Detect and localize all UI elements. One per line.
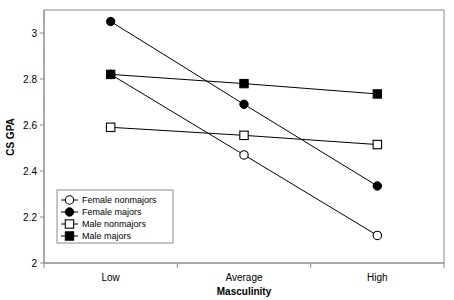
x-axis-title: Masculinity — [217, 286, 272, 297]
x-axis-ticks — [44, 263, 444, 268]
x-axis-tick-labels: LowAverageHigh — [101, 272, 387, 283]
data-point-marker — [373, 231, 381, 239]
data-point-marker — [106, 17, 114, 25]
y-tick-label: 2.4 — [23, 166, 37, 177]
data-point-marker — [65, 232, 73, 240]
data-point-marker — [106, 123, 114, 131]
legend-label: Male majors — [82, 231, 132, 241]
data-point-marker — [65, 220, 73, 228]
legend-label: Male nonmajors — [82, 219, 147, 229]
data-point-marker — [373, 140, 381, 148]
data-point-marker — [240, 151, 248, 159]
data-point-marker — [65, 196, 73, 204]
gpa-masculinity-line-chart: 22.22.42.62.83 LowAverageHigh CS GPA Mas… — [0, 0, 454, 300]
y-tick-label: 2.8 — [23, 74, 37, 85]
y-axis-ticks: 22.22.42.62.83 — [23, 28, 44, 269]
y-tick-label: 3 — [31, 28, 37, 39]
x-tick-label: Low — [101, 272, 120, 283]
data-point-marker — [106, 70, 114, 78]
x-tick-label: Average — [225, 272, 263, 283]
legend-item: Male nonmajors — [61, 219, 147, 229]
data-point-marker — [240, 100, 248, 108]
legend-label: Female majors — [82, 207, 142, 217]
legend-item: Male majors — [61, 231, 132, 241]
data-point-marker — [240, 131, 248, 139]
y-axis-title: CS GPA — [5, 118, 16, 156]
data-point-marker — [240, 79, 248, 87]
x-tick-label: High — [367, 272, 388, 283]
y-tick-label: 2 — [31, 258, 37, 269]
y-tick-label: 2.6 — [23, 120, 37, 131]
data-point-marker — [373, 182, 381, 190]
y-tick-label: 2.2 — [23, 212, 37, 223]
legend-label: Female nonmajors — [82, 195, 157, 205]
chart-container: 22.22.42.62.83 LowAverageHigh CS GPA Mas… — [0, 0, 454, 300]
data-point-marker — [65, 208, 73, 216]
data-point-marker — [373, 90, 381, 98]
chart-legend: Female nonmajorsFemale majorsMale nonmaj… — [57, 190, 173, 243]
